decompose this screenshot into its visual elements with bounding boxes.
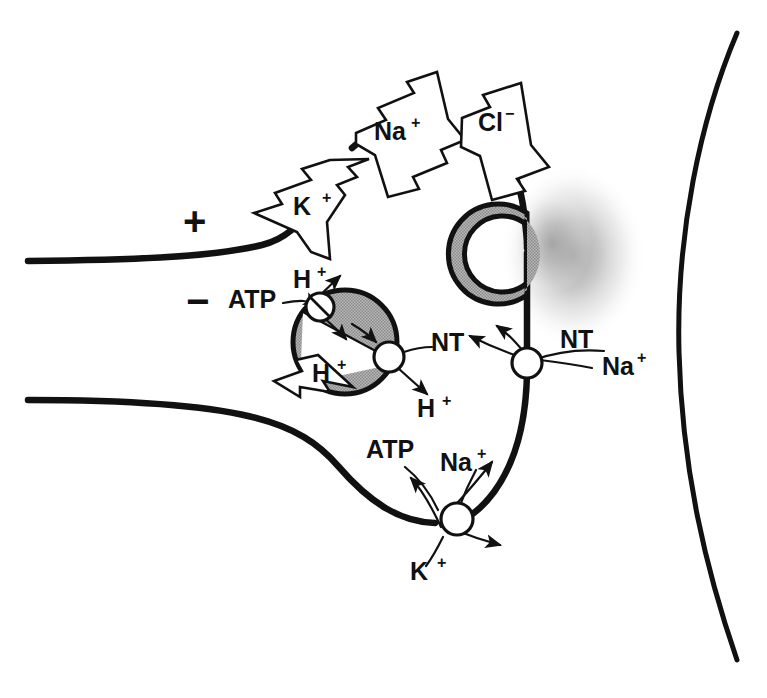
nt-transporter-pore[interactable] <box>374 342 404 372</box>
sodium-charge-pump: + <box>477 445 486 462</box>
sodium-arrow-label: Na <box>374 117 407 145</box>
chloride-arrow-label: Cl <box>478 108 503 136</box>
na-k-pump-pore[interactable] <box>441 503 473 535</box>
nt-label-vesicle: NT <box>431 328 464 356</box>
reuptake-pore[interactable] <box>512 348 542 378</box>
outside-charge-label: + <box>183 199 206 243</box>
synapse-diagram: + − K + Na + Cl − ATP H + <box>0 0 767 698</box>
proton-efflux-label: H <box>312 359 330 387</box>
nt-label-reuptake: NT <box>560 325 593 353</box>
inside-charge-label: − <box>186 279 209 323</box>
sodium-arrow-charge: + <box>411 114 420 131</box>
proton-in-label: H <box>293 265 311 293</box>
proton-efflux-charge: + <box>337 356 346 373</box>
potassium-charge-pump: + <box>437 554 446 571</box>
potassium-arrow-charge: + <box>322 189 331 206</box>
sodium-label-reuptake: Na <box>602 352 635 380</box>
postsynaptic-membrane <box>679 33 737 660</box>
sodium-charge-reuptake: + <box>637 349 646 366</box>
proton-out-label: H <box>417 394 435 422</box>
chloride-arrow-charge: − <box>505 105 514 122</box>
diagram-canvas: + − K + Na + Cl − ATP H + <box>0 0 767 698</box>
sodium-channel-arrow[interactable]: Na + <box>356 72 465 197</box>
proton-in-charge: + <box>317 263 326 280</box>
potassium-label-pump: K <box>410 557 428 585</box>
sodium-label-pump: Na <box>440 448 473 476</box>
atp-label-vesicle: ATP <box>228 285 276 313</box>
vesicular-proton-atpase[interactable]: ATP H + <box>228 263 340 321</box>
atp-label-pump: ATP <box>366 435 414 463</box>
potassium-arrow-label: K <box>293 192 311 220</box>
proton-out-charge: + <box>442 392 451 409</box>
